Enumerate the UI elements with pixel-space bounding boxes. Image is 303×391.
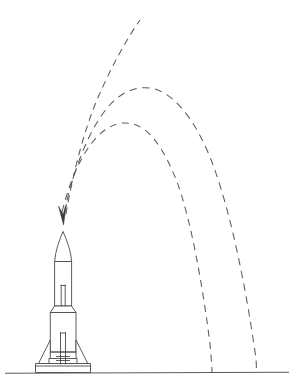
trajectory-mid-arc: [64, 88, 256, 373]
figure-canvas: [0, 0, 303, 391]
arrowhead-icon: [59, 204, 67, 225]
rocket-base-plate: [49, 359, 77, 364]
trajectory-path-low: [62, 123, 212, 373]
trajectory-path-steep: [66, 20, 140, 214]
launch-pad-pedestal: [36, 364, 91, 373]
rocket-nose-cone: [55, 232, 72, 262]
impact-arrow: [59, 204, 67, 225]
rocket-lower-stage: [50, 313, 76, 353]
rocket-trajectory-diagram: [0, 0, 303, 391]
trajectory-low-arc: [62, 123, 212, 373]
rocket-fin-right: [76, 340, 88, 364]
rocket-interstage-flare: [50, 306, 76, 313]
trajectory-outbound-steep: [66, 20, 140, 214]
multistage-rocket: [36, 232, 91, 373]
rocket-fin-left: [39, 340, 51, 364]
rocket-upper-stage: [55, 262, 72, 307]
trajectory-path-mid: [64, 88, 256, 373]
